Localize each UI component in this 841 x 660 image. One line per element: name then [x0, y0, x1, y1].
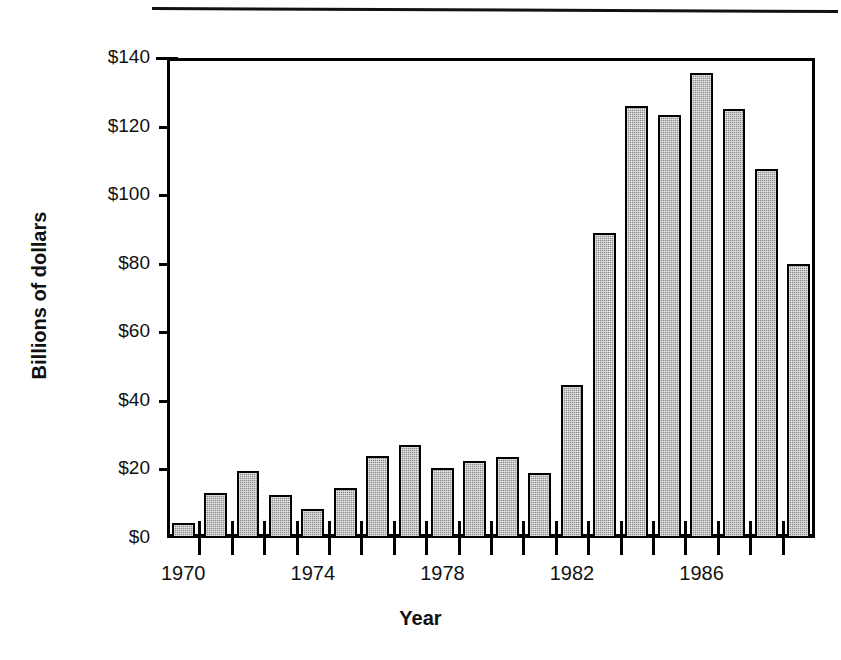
x-axis-tick-label: 1974 — [291, 562, 336, 585]
bar-1977 — [399, 445, 422, 538]
y-axis-tick-label-text: $120 — [38, 115, 150, 137]
x-axis-tick — [620, 538, 623, 555]
y-axis-tick-label: $20 — [38, 457, 150, 479]
x-axis-tick-inner — [393, 521, 396, 534]
x-axis-tick — [555, 538, 558, 555]
bar-1973 — [269, 495, 292, 538]
x-axis-tick — [393, 538, 396, 555]
y-axis-tick-label-text: $140 — [38, 46, 150, 68]
x-axis-tick — [782, 538, 785, 555]
x-axis-tick-inner — [782, 521, 785, 534]
x-axis-tick — [425, 538, 428, 555]
x-axis-tick-inner — [328, 521, 331, 534]
x-axis-tick-inner — [522, 521, 525, 534]
bar-1972 — [237, 471, 260, 538]
x-axis-tick-inner — [684, 521, 687, 534]
bar-1978 — [431, 468, 454, 538]
x-axis-tick-inner — [587, 521, 590, 534]
bar-1989 — [787, 264, 810, 538]
x-axis-tick — [328, 538, 331, 555]
bar-1984 — [625, 106, 648, 538]
bar-1981 — [528, 473, 551, 538]
x-axis-tick — [360, 538, 363, 555]
x-axis-tick-inner — [555, 521, 558, 534]
x-axis-tick-inner — [360, 521, 363, 534]
bar-1970 — [172, 523, 195, 538]
bar-1980 — [496, 457, 519, 538]
x-axis-tick-inner — [458, 521, 461, 534]
x-axis-tick-inner — [231, 521, 234, 534]
bar-1985 — [658, 115, 681, 538]
x-axis-tick — [749, 538, 752, 555]
x-axis-tick-label: 1978 — [420, 562, 465, 585]
bar-1982 — [561, 385, 584, 538]
bar-1975 — [334, 488, 357, 538]
x-axis-tick-inner — [296, 521, 299, 534]
chart-figure: $0$20$40$60$80$100$120$140 1970197419781… — [0, 0, 841, 660]
bar-1986 — [690, 73, 713, 538]
y-axis-tick-label: $140 — [38, 46, 150, 68]
bar-1974 — [301, 509, 324, 538]
x-axis-tick-inner — [425, 521, 428, 534]
x-axis-tick — [717, 538, 720, 555]
x-axis-tick-inner — [749, 521, 752, 534]
bar-1976 — [366, 456, 389, 538]
x-axis-tick-inner — [652, 521, 655, 534]
x-axis-tick — [490, 538, 493, 555]
x-axis-tick — [296, 538, 299, 555]
x-axis-tick — [652, 538, 655, 555]
bar-1987 — [723, 109, 746, 538]
x-axis-tick-inner — [263, 521, 266, 534]
y-axis-tick-label-text: $20 — [38, 457, 150, 479]
bar-1983 — [593, 233, 616, 538]
x-axis-tick — [684, 538, 687, 555]
x-axis-tick — [231, 538, 234, 555]
x-axis-tick-inner — [198, 521, 201, 534]
y-axis-tick-label: $0 — [38, 526, 150, 548]
bar-1988 — [755, 169, 778, 538]
x-axis-tick — [198, 538, 201, 555]
y-axis-tick-label: $120 — [38, 115, 150, 137]
page-rule-line — [152, 7, 838, 13]
x-axis-tick — [587, 538, 590, 555]
y-axis-title: Billions of dollars — [18, 170, 62, 420]
x-axis-tick-inner — [490, 521, 493, 534]
bar-1979 — [463, 461, 486, 538]
x-axis-tick-label: 1986 — [679, 562, 724, 585]
plot-area — [167, 58, 815, 538]
y-axis-title-text: Billions of dollars — [29, 211, 52, 379]
bar-1971 — [204, 493, 227, 538]
x-axis-tick — [458, 538, 461, 555]
x-axis-tick — [263, 538, 266, 555]
x-axis-title: Year — [0, 607, 841, 630]
x-axis-tick — [522, 538, 525, 555]
x-axis-tick-label: 1970 — [161, 562, 206, 585]
y-axis-tick-label-text: $0 — [38, 526, 150, 548]
x-axis-tick-label: 1982 — [550, 562, 595, 585]
x-axis-tick-inner — [717, 521, 720, 534]
x-axis-tick-inner — [620, 521, 623, 534]
